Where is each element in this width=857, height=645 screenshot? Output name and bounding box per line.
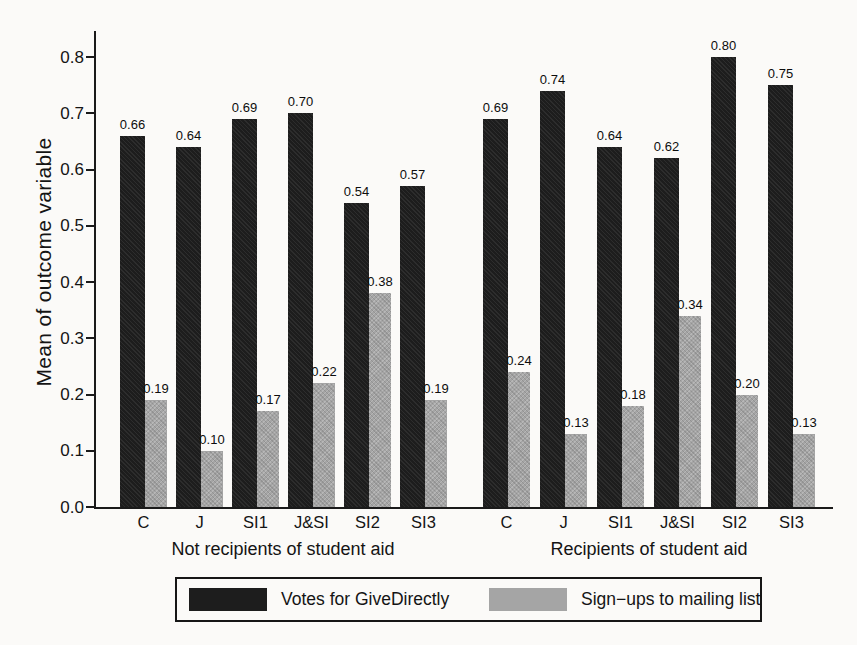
bar-value-label: 0.70 bbox=[288, 94, 313, 109]
bar-value-label: 0.57 bbox=[400, 167, 425, 182]
bar-value-label: 0.64 bbox=[176, 128, 201, 143]
y-axis-tick-label: 0.4 bbox=[46, 274, 84, 291]
bar-value-label: 0.62 bbox=[654, 139, 679, 154]
bar-votes-for-givedirectly bbox=[344, 203, 369, 507]
bar-value-label: 0.13 bbox=[563, 415, 588, 430]
bar-value-label: 0.38 bbox=[367, 274, 392, 289]
bar-votes-for-givedirectly bbox=[483, 119, 508, 507]
x-axis-line bbox=[94, 507, 833, 509]
y-axis-tick bbox=[86, 450, 94, 452]
bar-votes-for-givedirectly bbox=[768, 85, 793, 507]
bar-signups-to-mailing-list bbox=[736, 395, 758, 508]
legend-swatch-votes bbox=[189, 588, 267, 611]
group-label-recipients: Recipients of student aid bbox=[550, 539, 747, 560]
y-axis-tick bbox=[86, 281, 94, 283]
bar-value-label: 0.75 bbox=[768, 66, 793, 81]
bar-votes-for-givedirectly bbox=[232, 119, 257, 507]
y-axis-tick-label: 0.8 bbox=[46, 49, 84, 66]
bar-signups-to-mailing-list bbox=[313, 383, 335, 507]
bar-value-label: 0.54 bbox=[344, 184, 369, 199]
bar-value-label: 0.20 bbox=[734, 376, 759, 391]
y-axis-tick bbox=[86, 112, 94, 114]
x-axis-category-label: J bbox=[559, 513, 567, 532]
x-axis-category-label: SI1 bbox=[243, 513, 268, 532]
bar-value-label: 0.80 bbox=[711, 38, 736, 53]
legend-label-signups: Sign−ups to mailing list bbox=[581, 579, 760, 620]
bar-value-label: 0.69 bbox=[483, 100, 508, 115]
bar-votes-for-givedirectly bbox=[288, 113, 313, 507]
x-axis-category-label: SI3 bbox=[411, 513, 436, 532]
y-axis-tick-label: 0.7 bbox=[46, 105, 84, 122]
bar-votes-for-givedirectly bbox=[120, 136, 145, 507]
bar-signups-to-mailing-list bbox=[369, 293, 391, 507]
bar-value-label: 0.34 bbox=[677, 297, 702, 312]
x-axis-category-label: C bbox=[501, 513, 513, 532]
bar-signups-to-mailing-list bbox=[622, 406, 644, 507]
bar-votes-for-givedirectly bbox=[654, 158, 679, 507]
y-axis-tick-label: 0.3 bbox=[46, 330, 84, 347]
legend: Votes for GiveDirectly Sign−ups to maili… bbox=[175, 577, 762, 622]
bar-value-label: 0.74 bbox=[540, 72, 565, 87]
legend-label-votes: Votes for GiveDirectly bbox=[281, 579, 449, 620]
y-axis-tick-label: 0.1 bbox=[46, 442, 84, 459]
y-axis-tick-label: 0.0 bbox=[46, 499, 84, 516]
bar-votes-for-givedirectly bbox=[711, 57, 736, 507]
bar-value-label: 0.18 bbox=[620, 387, 645, 402]
y-axis-tick-label: 0.5 bbox=[46, 217, 84, 234]
bar-signups-to-mailing-list bbox=[679, 316, 701, 507]
bar-value-label: 0.24 bbox=[506, 353, 531, 368]
x-axis-category-label: J bbox=[195, 513, 203, 532]
bar-value-label: 0.69 bbox=[232, 100, 257, 115]
bar-votes-for-givedirectly bbox=[540, 91, 565, 507]
x-axis-category-label: SI1 bbox=[608, 513, 633, 532]
x-axis-category-label: J&SI bbox=[294, 513, 329, 532]
y-axis-tick bbox=[86, 394, 94, 396]
y-axis-line bbox=[94, 31, 96, 509]
legend-swatch-signups bbox=[489, 588, 567, 611]
x-axis-category-label: SI2 bbox=[722, 513, 747, 532]
bar-signups-to-mailing-list bbox=[425, 400, 447, 507]
y-axis-tick bbox=[86, 506, 94, 508]
bar-value-label: 0.66 bbox=[120, 117, 145, 132]
bar-value-label: 0.22 bbox=[311, 364, 336, 379]
y-axis-tick bbox=[86, 225, 94, 227]
bar-signups-to-mailing-list bbox=[201, 451, 223, 507]
y-axis-tick bbox=[86, 169, 94, 171]
group-label-not-recipients: Not recipients of student aid bbox=[171, 539, 394, 560]
bar-signups-to-mailing-list bbox=[145, 400, 167, 507]
bar-votes-for-givedirectly bbox=[597, 147, 622, 507]
bar-signups-to-mailing-list bbox=[257, 411, 279, 507]
y-axis-tick bbox=[86, 56, 94, 58]
x-axis-category-label: SI3 bbox=[779, 513, 804, 532]
bar-value-label: 0.13 bbox=[791, 415, 816, 430]
y-axis-tick bbox=[86, 337, 94, 339]
bar-value-label: 0.10 bbox=[199, 432, 224, 447]
bar-signups-to-mailing-list bbox=[508, 372, 530, 507]
x-axis-category-label: C bbox=[138, 513, 150, 532]
y-axis-tick-label: 0.6 bbox=[46, 161, 84, 178]
bar-votes-for-givedirectly bbox=[176, 147, 201, 507]
bar-chart-figure: Mean of outcome variable 0.00.10.20.30.4… bbox=[0, 0, 857, 645]
y-axis-tick-label: 0.2 bbox=[46, 386, 84, 403]
bar-value-label: 0.17 bbox=[255, 392, 280, 407]
bar-votes-for-givedirectly bbox=[400, 186, 425, 507]
bar-value-label: 0.19 bbox=[423, 381, 448, 396]
x-axis-category-label: SI2 bbox=[355, 513, 380, 532]
bar-signups-to-mailing-list bbox=[793, 434, 815, 507]
bar-value-label: 0.64 bbox=[597, 128, 622, 143]
bar-value-label: 0.19 bbox=[143, 381, 168, 396]
x-axis-category-label: J&SI bbox=[660, 513, 695, 532]
bar-signups-to-mailing-list bbox=[565, 434, 587, 507]
